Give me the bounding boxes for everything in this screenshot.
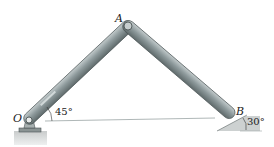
horizontal-reference-line xyxy=(45,118,215,121)
pin-o xyxy=(26,117,32,123)
pin-a xyxy=(124,22,132,30)
point-label-o: O xyxy=(13,112,22,125)
point-label-b: B xyxy=(235,105,244,118)
angle-label-45: 45° xyxy=(55,106,73,117)
angle-label-30: 30° xyxy=(247,116,265,127)
link-oa xyxy=(21,18,136,127)
linkage-diagram: A O B 45° 30° xyxy=(0,0,274,147)
ground-block-o xyxy=(14,131,47,145)
support-base-o xyxy=(19,128,41,132)
link-ab xyxy=(120,18,237,121)
point-label-a: A xyxy=(114,12,123,25)
